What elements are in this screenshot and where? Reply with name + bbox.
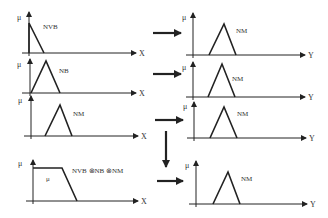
mu-axis-label: μ <box>17 60 21 69</box>
y-output-axis-label: Y <box>308 51 314 60</box>
membership-function-nm <box>213 172 240 204</box>
x-axis-label: X <box>141 197 147 206</box>
mu-axis-label: μ <box>185 161 189 170</box>
fuzzy-inference-diagram: μ X NVB μ X NB μ X NM μ X μ NVB ⊗NB ⊗NM <box>0 0 328 218</box>
mu-axis-label: μ <box>18 96 22 105</box>
mu-axis-label: μ <box>18 159 22 168</box>
y-output-axis-label: Y <box>310 200 316 209</box>
set-label: NB <box>59 67 69 75</box>
mu-axis-label: μ <box>17 13 21 22</box>
set-label: NM <box>73 110 85 118</box>
y-output-axis-label: Y <box>308 93 314 102</box>
membership-function-nvb <box>29 23 44 53</box>
set-label: NM <box>241 175 253 183</box>
set-label: NVB <box>43 23 58 31</box>
mu-axis-label: μ <box>182 63 186 72</box>
x-axis-label: X <box>139 49 145 58</box>
output-panel-2: μ Y NM <box>182 62 314 102</box>
membership-function-nm <box>208 64 235 97</box>
set-label: NM <box>236 27 248 35</box>
set-label: NM <box>232 75 244 83</box>
inner-mu-label: μ <box>46 175 50 183</box>
output-panel-3: μ Y NM <box>183 102 315 143</box>
membership-function-nm <box>210 107 237 138</box>
input-panel-nvb: μ X NVB <box>17 12 145 58</box>
y-output-axis-label: Y <box>309 134 315 143</box>
x-axis-label: X <box>141 132 147 141</box>
mu-axis-label: μ <box>183 102 187 111</box>
input-panel-aggregated: μ X μ NVB ⊗NB ⊗NM <box>18 159 147 206</box>
output-panel-1: μ Y NM <box>182 13 314 60</box>
x-axis-label: X <box>139 89 145 98</box>
set-label: NM <box>237 110 249 118</box>
membership-function-nb <box>31 61 60 93</box>
operator-label: NVB ⊗NB ⊗NM <box>72 167 124 175</box>
mu-axis-label: μ <box>182 13 186 22</box>
membership-function-aggregated <box>33 168 77 201</box>
membership-function-nm <box>209 24 236 55</box>
input-panel-nb: μ X NB <box>17 59 145 98</box>
output-panel-4: μ Y NM <box>185 161 316 209</box>
membership-function-nm <box>45 105 72 136</box>
input-panel-nm: μ X NM <box>18 96 147 141</box>
